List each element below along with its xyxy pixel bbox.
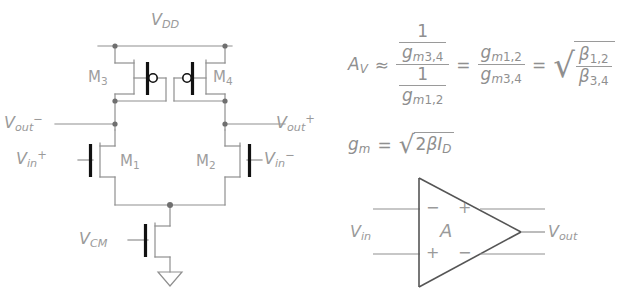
gate-bars	[91, 62, 250, 257]
m4-label: M4	[213, 68, 233, 87]
opamp-terminal-bottom-outside: +	[426, 243, 439, 262]
opamp-terminal-top-inside: +	[458, 198, 471, 217]
gain-lhs: AV	[348, 54, 368, 76]
equals-sign-2: =	[530, 55, 548, 75]
radical-sign: √	[553, 41, 575, 89]
pmos-bubbles	[149, 74, 191, 82]
opamp-symbol	[373, 178, 545, 287]
vin-plus-label: Vin+	[16, 148, 47, 170]
gm-lhs: gm	[348, 134, 370, 156]
junction-dot	[222, 43, 227, 48]
junction-dots	[112, 43, 227, 208]
inner-fraction-top: 1 gm3,4	[399, 22, 446, 64]
gm-equation: gm = √ 2βID	[348, 132, 454, 157]
opamp-terminal-bottom-inside: −	[458, 243, 471, 262]
gain-equation: AV ≈ 1 gm3,4 1 gm1,2	[348, 22, 615, 107]
opamp-terminal-top-outside: −	[426, 198, 439, 217]
figure-canvas: VDD M3 M4 M1 M2 Vout− Vout+ Vin+ Vin− VC…	[0, 0, 632, 302]
approx-sign: ≈	[373, 55, 391, 75]
junction-dot	[222, 121, 227, 126]
inner-fraction-bottom: 1 gm1,2	[399, 65, 446, 107]
vout-plus-label: Vout+	[276, 112, 315, 134]
m4-bubble-icon	[183, 74, 191, 82]
m3-bubble-icon	[149, 74, 157, 82]
m2-label: M2	[196, 152, 216, 171]
junction-dot	[112, 121, 117, 126]
junction-dot	[167, 202, 173, 208]
ground-icon	[158, 272, 182, 286]
junction-dot	[112, 43, 117, 48]
gm-ratio-fraction: gm1,2 gm3,4	[478, 43, 525, 87]
gm-radical: √ 2βID	[399, 132, 455, 157]
m3-label: M3	[88, 68, 108, 87]
opamp-input-label: Vin	[350, 222, 371, 243]
vcm-label: VCM	[79, 229, 107, 250]
m1-label: M1	[120, 152, 140, 171]
opamp-output-label: Vout	[548, 222, 577, 243]
beta-ratio-fraction: β1,2 β3,4	[576, 45, 612, 89]
equals-sign-1: =	[454, 55, 472, 75]
opamp-gain-label: A	[440, 220, 452, 241]
junction-dot	[222, 98, 227, 103]
gm-equals-sign: =	[375, 135, 393, 155]
radical-sign: √	[399, 132, 415, 157]
vout-minus-label: Vout−	[4, 112, 43, 134]
beta-ratio-radical: √ β1,2 β3,4	[553, 41, 614, 89]
vin-minus-label: Vin−	[264, 148, 295, 170]
junction-dot	[112, 98, 117, 103]
gain-compound-fraction: 1 gm3,4 1 gm1,2	[396, 22, 449, 107]
vdd-label: VDD	[151, 10, 179, 31]
